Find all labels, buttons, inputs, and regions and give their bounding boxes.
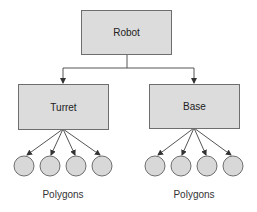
polygon-node (14, 156, 34, 176)
polygon-node (92, 156, 112, 176)
base-polygons-label: Polygons (144, 189, 244, 200)
base-connectors (158, 128, 231, 155)
polygon-node (145, 156, 165, 176)
root-connectors (63, 54, 194, 83)
robot-label: Robot (113, 27, 140, 38)
base-label: Base (183, 101, 206, 112)
turret-node: Turret (18, 84, 109, 130)
polygon-node (66, 156, 86, 176)
base-node: Base (149, 84, 240, 129)
polygon-node (40, 156, 60, 176)
polygon-node (171, 156, 191, 176)
turret-polygons-label: Polygons (13, 189, 113, 200)
base-polygons (145, 156, 243, 176)
robot-node: Robot (81, 10, 172, 55)
turret-polygons (14, 156, 112, 176)
polygon-node (197, 156, 217, 176)
turret-label: Turret (50, 102, 76, 113)
polygon-node (223, 156, 243, 176)
turret-connectors (27, 129, 100, 155)
